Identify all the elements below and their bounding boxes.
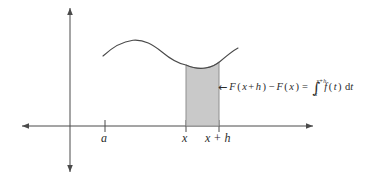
integral-sign-group: ∫ x+h x <box>312 81 320 96</box>
x-axis-arrow-left <box>22 123 29 129</box>
axis-label-a: a <box>101 131 107 146</box>
left-arrow-icon: ← <box>218 82 227 93</box>
integral-annotation: ← F ( x + h ) − F ( x ) = ∫ x+h x f ( t … <box>218 80 353 95</box>
annot-equals: = <box>301 82 310 93</box>
y-axis <box>67 8 73 172</box>
axis-label-x-plus-h: x + h <box>205 131 230 146</box>
integral-lower-limit: x <box>314 91 317 97</box>
integral-upper-limit: x+h <box>316 78 326 84</box>
shaded-area-under-curve <box>186 62 219 126</box>
x-axis <box>22 123 313 129</box>
x-axis-arrow-right <box>306 123 313 129</box>
axis-label-x: x <box>182 131 187 146</box>
annot-close3: ) <box>337 82 344 93</box>
y-axis-arrow-bottom <box>67 165 73 172</box>
y-axis-arrow-top <box>67 8 73 15</box>
fundamental-theorem-diagram: a x x + h ← F ( x + h ) − F ( x ) = ∫ x+… <box>0 0 387 180</box>
annot-plus: + <box>247 82 256 93</box>
annot-differential-var: t <box>350 82 353 93</box>
